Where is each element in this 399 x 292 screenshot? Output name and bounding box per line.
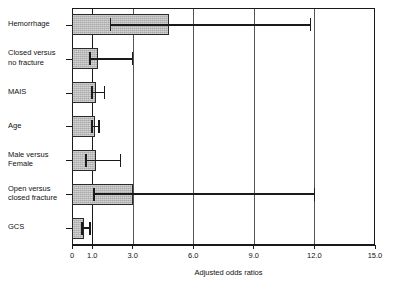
- error-bar-cap-high-7: [89, 222, 91, 235]
- y-axis-label-1: Hemorrhage: [8, 19, 64, 29]
- y-axis-label-3: MAIS: [8, 87, 64, 97]
- y-axis-label-2: Closed versus no fracture: [8, 48, 64, 67]
- y-axis-label-7: GCS: [8, 222, 64, 232]
- x-axis-line: [72, 245, 375, 246]
- x-axis-tick-label-4: 9.0: [249, 251, 259, 260]
- x-axis-tick-label-5: 12.0: [307, 251, 322, 260]
- gridline-3: [133, 9, 134, 244]
- error-bar-cap-low-7: [81, 222, 83, 235]
- x-axis-tick-label-0: 0: [70, 251, 74, 260]
- x-axis-tick-3: [193, 245, 194, 249]
- error-bar-cap-low-6: [93, 188, 95, 201]
- y-axis-label-6: Open versus closed fracture: [8, 184, 64, 203]
- gridline-12: [314, 9, 315, 244]
- x-axis-tick-label-6: 15.0: [368, 251, 383, 260]
- x-axis-tick-5: [314, 245, 315, 249]
- x-axis-tick-2: [132, 245, 133, 249]
- error-bar-cap-low-3: [91, 86, 93, 99]
- y-axis-label-4: Age: [8, 121, 64, 131]
- error-bar-line-3: [92, 92, 104, 94]
- error-bar-cap-high-3: [104, 86, 106, 99]
- x-axis-tick-4: [253, 245, 254, 249]
- error-bar-cap-low-2: [89, 52, 91, 65]
- x-axis-tick-label-2: 3.0: [127, 251, 137, 260]
- error-bar-line-5: [86, 160, 120, 162]
- error-bar-cap-high-4: [98, 120, 100, 133]
- x-axis-tick-0: [72, 245, 73, 249]
- error-bar-cap-high-5: [120, 154, 122, 167]
- x-axis-title-text: Adjusted odds ratios: [195, 268, 263, 277]
- error-bar-line-6: [94, 193, 314, 195]
- error-bar-cap-high-1: [310, 18, 312, 31]
- x-axis-tick-label-3: 6.0: [188, 251, 198, 260]
- error-bar-cap-high-2: [132, 52, 134, 65]
- x-axis-title: Adjusted odds ratios: [0, 268, 399, 277]
- error-bar-cap-low-1: [110, 18, 112, 31]
- error-bar-line-1: [110, 24, 310, 26]
- plot-area: [72, 8, 375, 245]
- error-bar-cap-low-5: [85, 154, 87, 167]
- gridline-6: [193, 9, 194, 244]
- odds-ratio-chart: HemorrhageClosed versus no fractureMAISA…: [0, 0, 399, 292]
- gridline-9: [254, 9, 255, 244]
- error-bar-cap-low-4: [91, 120, 93, 133]
- y-axis-label-5: Male versus Female: [8, 150, 64, 169]
- x-axis-tick-label-1: 1.0: [87, 251, 97, 260]
- x-axis-tick-6: [375, 245, 376, 249]
- x-axis-tick-1: [92, 245, 93, 249]
- error-bar-cap-high-6: [314, 188, 316, 201]
- error-bar-line-2: [90, 58, 132, 60]
